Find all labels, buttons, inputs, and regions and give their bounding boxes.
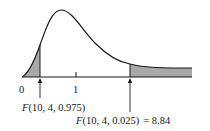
upper-arrow-head-icon	[128, 78, 132, 83]
lower-args: (10, 4, 0.975)	[28, 102, 85, 114]
upper-args: (10, 4, 0.025)	[82, 115, 139, 127]
tick-label-0: 0	[19, 84, 24, 95]
f-distribution-diagram: 0 1 F(10, 4, 0.975) F(10, 4, 0.025)= 8.8…	[0, 0, 210, 131]
lower-tail-shade	[22, 45, 40, 77]
upper-value: = 8.84	[143, 115, 171, 126]
lower-critical-label: F(10, 4, 0.975)	[21, 102, 86, 114]
density-curve	[22, 10, 192, 77]
upper-critical-label: F(10, 4, 0.025)= 8.84	[75, 115, 171, 127]
lower-arrow-head-icon	[38, 78, 42, 83]
tick-label-1: 1	[73, 84, 78, 95]
